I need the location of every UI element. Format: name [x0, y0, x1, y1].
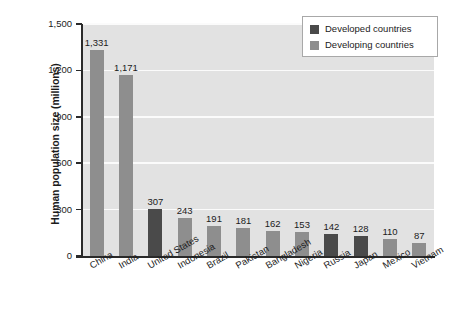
- y-tick-label: 300: [56, 205, 72, 215]
- gridline: [82, 162, 434, 164]
- bar-value-label: 1,171: [106, 63, 146, 73]
- gridline: [82, 116, 434, 118]
- y-tick-label: 600: [56, 158, 72, 168]
- legend-label-developed: Developed countries: [325, 24, 412, 34]
- population-bar-chart: Human population size (millions) 0300600…: [0, 0, 456, 330]
- y-axis-line: [81, 24, 83, 257]
- y-tick-label: 1,200: [48, 65, 72, 75]
- y-tick-mark: [76, 116, 82, 118]
- y-tick-mark: [76, 162, 82, 164]
- bar-value-label: 1,331: [77, 38, 117, 48]
- legend-swatch-developing-icon: [310, 41, 319, 50]
- bar-india[interactable]: [119, 75, 133, 256]
- legend-swatch-developed-icon: [310, 25, 319, 34]
- legend-item-developed[interactable]: Developed countries: [310, 21, 437, 37]
- y-tick-mark: [76, 255, 82, 257]
- y-tick-mark: [76, 209, 82, 211]
- bar-united-states[interactable]: [148, 209, 162, 256]
- y-tick-label: 900: [56, 112, 72, 122]
- y-tick-label: 1,500: [48, 19, 72, 29]
- y-tick-label: 0: [67, 251, 72, 261]
- bar-value-label: 307: [135, 197, 175, 207]
- y-tick-mark: [76, 70, 82, 72]
- legend-item-developing[interactable]: Developing countries: [310, 37, 437, 53]
- chart-legend: Developed countries Developing countries: [302, 16, 438, 57]
- bar-china[interactable]: [90, 50, 104, 256]
- gridline: [82, 209, 434, 211]
- y-tick-mark: [76, 23, 82, 25]
- bar-value-label: 87: [399, 231, 439, 241]
- legend-label-developing: Developing countries: [325, 40, 414, 50]
